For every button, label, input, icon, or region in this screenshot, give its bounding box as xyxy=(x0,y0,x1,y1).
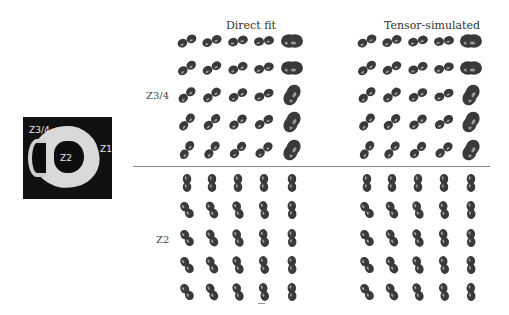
tissue-cross-section-inset: Z3/4 Z2 Z1 xyxy=(23,117,112,199)
orientation-glyph-top xyxy=(429,135,459,165)
row-label-z2: Z2 xyxy=(156,234,169,245)
orientation-glyph-top xyxy=(456,135,486,165)
orientation-glyph-bottom xyxy=(456,223,486,253)
orientation-glyph-top xyxy=(277,135,307,165)
orientation-glyph-top xyxy=(249,135,279,165)
section-divider xyxy=(133,166,490,167)
orientation-glyph-top xyxy=(456,107,486,137)
orientation-glyph-top xyxy=(277,80,307,110)
orientation-glyph-bottom xyxy=(429,250,459,280)
orientation-glyph-bottom xyxy=(456,250,486,280)
orientation-glyph-top xyxy=(429,26,459,56)
orientation-glyph-bottom xyxy=(277,195,307,225)
orientation-glyph-bottom xyxy=(249,168,279,198)
orientation-glyph-top xyxy=(277,53,307,83)
inset-label-z2: Z2 xyxy=(60,153,72,163)
orientation-glyph-top xyxy=(456,53,486,83)
orientation-glyph-bottom xyxy=(249,223,279,253)
orientation-glyph-bottom xyxy=(277,223,307,253)
orientation-glyph-bottom xyxy=(429,195,459,225)
row-label-z34: Z3/4 xyxy=(146,90,169,101)
orientation-glyph-bottom xyxy=(429,223,459,253)
orientation-glyph-bottom xyxy=(429,168,459,198)
orientation-glyph-top xyxy=(429,107,459,137)
inset-label-z34: Z3/4 xyxy=(29,125,50,135)
orientation-glyph-bottom xyxy=(249,195,279,225)
orientation-glyph-bottom xyxy=(429,277,459,307)
orientation-glyph-bottom xyxy=(249,277,279,307)
orientation-glyph-top xyxy=(249,80,279,110)
orientation-glyph-top xyxy=(429,53,459,83)
orientation-glyph-bottom xyxy=(456,277,486,307)
orientation-glyph-top xyxy=(277,26,307,56)
orientation-glyph-bottom xyxy=(456,168,486,198)
orientation-glyph-bottom xyxy=(277,277,307,307)
tissue-lobe xyxy=(28,139,46,177)
orientation-glyph-bottom xyxy=(277,168,307,198)
inset-label-z1: Z1 xyxy=(100,144,112,154)
orientation-glyph-bottom xyxy=(249,250,279,280)
orientation-glyph-top xyxy=(429,80,459,110)
orientation-glyph-top xyxy=(249,53,279,83)
orientation-glyph-top xyxy=(456,26,486,56)
orientation-glyph-top xyxy=(456,80,486,110)
orientation-glyph-bottom xyxy=(456,195,486,225)
orientation-glyph-bottom xyxy=(277,250,307,280)
orientation-glyph-top xyxy=(249,26,279,56)
orientation-glyph-top xyxy=(277,107,307,137)
orientation-glyph-top xyxy=(249,107,279,137)
